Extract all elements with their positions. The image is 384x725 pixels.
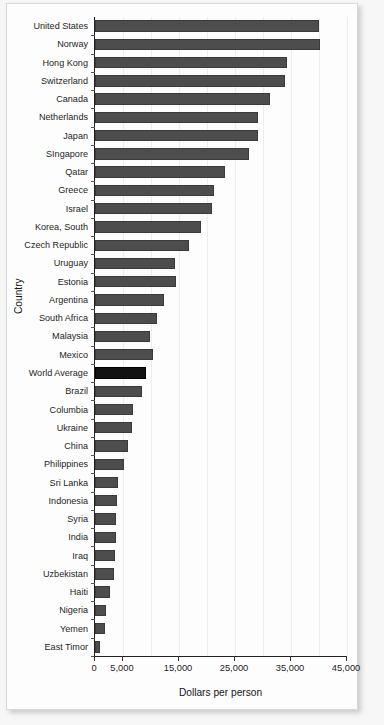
- bar-chart: United StatesNorwayHong KongSwitzerlandC…: [7, 4, 359, 711]
- bar[interactable]: [95, 513, 116, 524]
- bar-row: Malaysia: [95, 327, 347, 345]
- y-tick-label: Switzerland: [41, 76, 88, 86]
- y-tick-label: Japan: [63, 131, 88, 141]
- bar[interactable]: [95, 221, 201, 232]
- bar-row: World Average: [95, 364, 347, 382]
- bar-row: Netherlands: [95, 108, 347, 126]
- bar-row: Yemen: [95, 619, 347, 637]
- y-tick-label: Estonia: [58, 277, 88, 287]
- bar-row: Canada: [95, 90, 347, 108]
- bar[interactable]: [95, 404, 133, 415]
- bar[interactable]: [95, 240, 189, 251]
- bar[interactable]: [95, 586, 110, 597]
- bar[interactable]: [95, 57, 287, 68]
- x-axis-tick: [290, 656, 291, 661]
- bar-row: East Timor: [95, 638, 347, 656]
- bar[interactable]: [95, 258, 175, 269]
- bar[interactable]: [95, 185, 214, 196]
- y-tick-label: Columbia: [50, 405, 88, 415]
- bar[interactable]: [95, 605, 106, 616]
- bar[interactable]: [95, 148, 249, 159]
- x-tick-label: 35,000: [276, 663, 304, 673]
- bar[interactable]: [95, 130, 258, 141]
- y-tick-label: Argentina: [49, 295, 88, 305]
- bar[interactable]: [95, 166, 225, 177]
- bar[interactable]: [95, 20, 319, 31]
- bar[interactable]: [95, 349, 153, 360]
- bar-row: Brazil: [95, 382, 347, 400]
- bar[interactable]: [95, 459, 124, 470]
- x-axis-tick: [178, 656, 179, 661]
- y-tick-label: Mexico: [59, 350, 88, 360]
- bar-row: South Africa: [95, 309, 347, 327]
- bar-row: Haiti: [95, 583, 347, 601]
- y-tick-label: Korea, South: [35, 222, 88, 232]
- y-axis-title: Country: [13, 278, 24, 314]
- bar-row: Indonesia: [95, 492, 347, 510]
- bar[interactable]: [95, 112, 258, 123]
- bar[interactable]: [95, 276, 176, 287]
- bar[interactable]: [95, 367, 146, 378]
- grid-line: [347, 17, 348, 656]
- bar-row: Uzbekistan: [95, 565, 347, 583]
- bar[interactable]: [95, 550, 115, 561]
- y-tick-label: China: [64, 441, 88, 451]
- y-tick-label: Czech Republic: [24, 240, 88, 250]
- bar[interactable]: [95, 75, 285, 86]
- y-tick-label: Ukraine: [57, 423, 88, 433]
- y-tick-label: Uruguay: [54, 258, 88, 268]
- bar-row: Sri Lanka: [95, 473, 347, 491]
- y-tick-label: Philippines: [44, 459, 88, 469]
- bar[interactable]: [95, 623, 105, 634]
- y-tick-label: Nigeria: [59, 605, 88, 615]
- bar-row: Qatar: [95, 163, 347, 181]
- bar[interactable]: [95, 495, 117, 506]
- x-axis-tick: [122, 656, 123, 661]
- bar[interactable]: [95, 203, 212, 214]
- y-tick-label: Sri Lanka: [50, 478, 88, 488]
- x-axis-title: Dollars per person: [94, 687, 347, 698]
- y-tick-label: Iraq: [72, 551, 88, 561]
- y-tick-label: Indonesia: [49, 496, 88, 506]
- bar-row: Norway: [95, 35, 347, 53]
- bar[interactable]: [95, 532, 116, 543]
- bar-row: Mexico: [95, 346, 347, 364]
- bar[interactable]: [95, 477, 118, 488]
- bar[interactable]: [95, 294, 164, 305]
- y-tick-label: Uzbekistan: [43, 569, 88, 579]
- x-axis-tick: [234, 656, 235, 661]
- bar-row: Korea, South: [95, 218, 347, 236]
- bar-row: Czech Republic: [95, 236, 347, 254]
- y-tick-label: India: [68, 532, 88, 542]
- bar[interactable]: [95, 313, 157, 324]
- bar[interactable]: [95, 568, 114, 579]
- bar[interactable]: [95, 641, 100, 652]
- bar-row: Nigeria: [95, 601, 347, 619]
- bar-row: Argentina: [95, 291, 347, 309]
- bar[interactable]: [95, 386, 142, 397]
- y-tick-label: East Timor: [45, 642, 88, 652]
- bar[interactable]: [95, 93, 270, 104]
- bar-row: Columbia: [95, 400, 347, 418]
- bar-row: Ukraine: [95, 419, 347, 437]
- bar[interactable]: [95, 39, 320, 50]
- bar[interactable]: [95, 440, 128, 451]
- bar-row: Greece: [95, 181, 347, 199]
- y-tick-label: Brazil: [65, 386, 88, 396]
- y-tick-label: World Average: [29, 368, 88, 378]
- bar-row: Hong Kong: [95, 54, 347, 72]
- bar[interactable]: [95, 422, 132, 433]
- y-tick-label: United States: [33, 21, 88, 31]
- x-tick-label: 25,000: [220, 663, 248, 673]
- y-tick-label: Malaysia: [52, 331, 88, 341]
- chart-card: United StatesNorwayHong KongSwitzerlandC…: [6, 3, 358, 710]
- bar-row: Uruguay: [95, 254, 347, 272]
- bar-row: Philippines: [95, 455, 347, 473]
- bar-row: Japan: [95, 127, 347, 145]
- x-tick-label: 5,000: [110, 663, 133, 673]
- bar[interactable]: [95, 331, 150, 342]
- y-tick-label: SIngapore: [46, 149, 88, 159]
- y-tick-label: Qatar: [65, 167, 88, 177]
- x-tick-label: 45,000: [332, 663, 360, 673]
- y-tick-label: Norway: [57, 39, 88, 49]
